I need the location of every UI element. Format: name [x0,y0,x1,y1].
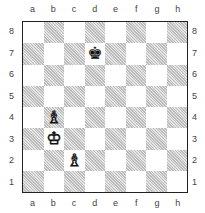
black-king-icon[interactable]: ♚ [87,45,102,62]
square-d1[interactable] [85,171,106,192]
file-label-e: e [105,198,126,208]
square-e3[interactable] [105,128,126,149]
square-c3[interactable] [64,128,85,149]
square-b4[interactable]: ♗ [44,107,65,128]
square-a5[interactable] [23,86,44,107]
rank-label-4: 4 [192,112,197,122]
square-h1[interactable] [167,171,188,192]
square-f4[interactable] [126,107,147,128]
square-d2[interactable] [85,150,106,171]
square-a2[interactable] [23,150,44,171]
square-b1[interactable] [44,171,65,192]
square-b3[interactable]: ♔ [44,128,65,149]
rank-label-7: 7 [192,48,197,58]
rank-label-8: 8 [192,26,197,36]
file-label-g: g [147,4,168,14]
rank-label-2: 2 [192,155,197,165]
square-b5[interactable] [44,86,65,107]
square-a8[interactable] [23,22,44,43]
file-label-a: a [22,4,43,14]
white-king-icon[interactable]: ♔ [46,130,61,147]
rank-label-1: 1 [9,177,14,187]
rank-label-4: 4 [9,112,14,122]
rank-label-7: 7 [9,48,14,58]
square-g7[interactable] [146,43,167,64]
square-g4[interactable] [146,107,167,128]
square-h7[interactable] [167,43,188,64]
square-e7[interactable] [105,43,126,64]
square-f7[interactable] [126,43,147,64]
rank-label-2: 2 [9,155,14,165]
square-d3[interactable] [85,128,106,149]
file-label-a: a [22,198,43,208]
square-e6[interactable] [105,65,126,86]
square-e5[interactable] [105,86,126,107]
square-d8[interactable] [85,22,106,43]
square-b2[interactable] [44,150,65,171]
square-d5[interactable] [85,86,106,107]
square-g1[interactable] [146,171,167,192]
rank-label-6: 6 [9,69,14,79]
square-c2[interactable]: ♗ [64,150,85,171]
file-label-h: h [167,198,188,208]
square-h3[interactable] [167,128,188,149]
square-f6[interactable] [126,65,147,86]
square-h5[interactable] [167,86,188,107]
file-label-c: c [64,4,85,14]
square-c8[interactable] [64,22,85,43]
square-g8[interactable] [146,22,167,43]
square-h2[interactable] [167,150,188,171]
square-f8[interactable] [126,22,147,43]
rank-label-1: 1 [192,177,197,187]
square-a7[interactable] [23,43,44,64]
square-f1[interactable] [126,171,147,192]
rank-label-6: 6 [192,69,197,79]
square-d4[interactable] [85,107,106,128]
square-g5[interactable] [146,86,167,107]
file-label-h: h [167,4,188,14]
square-f5[interactable] [126,86,147,107]
square-g6[interactable] [146,65,167,86]
square-a1[interactable] [23,171,44,192]
square-c7[interactable] [64,43,85,64]
square-d7[interactable]: ♚ [85,43,106,64]
file-label-e: e [105,4,126,14]
square-e2[interactable] [105,150,126,171]
white-bishop-icon[interactable]: ♗ [67,152,82,169]
square-d6[interactable] [85,65,106,86]
file-label-f: f [126,4,147,14]
square-c1[interactable] [64,171,85,192]
square-c5[interactable] [64,86,85,107]
square-a6[interactable] [23,65,44,86]
square-h4[interactable] [167,107,188,128]
file-label-f: f [126,198,147,208]
square-f2[interactable] [126,150,147,171]
square-a4[interactable] [23,107,44,128]
square-h6[interactable] [167,65,188,86]
rank-label-8: 8 [9,26,14,36]
square-e1[interactable] [105,171,126,192]
square-f3[interactable] [126,128,147,149]
file-label-g: g [147,198,168,208]
square-c4[interactable] [64,107,85,128]
rank-label-3: 3 [9,134,14,144]
file-label-b: b [43,198,64,208]
square-b8[interactable] [44,22,65,43]
square-b6[interactable] [44,65,65,86]
square-e4[interactable] [105,107,126,128]
file-label-b: b [43,4,64,14]
square-h8[interactable] [167,22,188,43]
square-b7[interactable] [44,43,65,64]
square-e8[interactable] [105,22,126,43]
rank-label-5: 5 [192,91,197,101]
square-g2[interactable] [146,150,167,171]
file-label-d: d [84,198,105,208]
rank-label-5: 5 [9,91,14,101]
chess-board: ♚♗♔♗ [22,21,188,193]
square-g3[interactable] [146,128,167,149]
white-bishop-icon[interactable]: ♗ [46,109,61,126]
rank-label-3: 3 [192,134,197,144]
square-c6[interactable] [64,65,85,86]
file-label-c: c [64,198,85,208]
square-a3[interactable] [23,128,44,149]
